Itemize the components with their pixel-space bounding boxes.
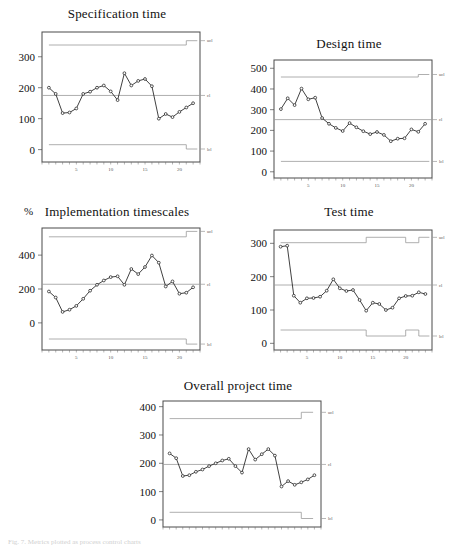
figure-control-charts: Specification time 01002003005101520uclc… [0,0,463,547]
series-line [281,89,425,142]
data-point [178,292,181,295]
data-point [341,130,344,133]
data-point [178,111,181,114]
x-tick-label: 20 [177,355,183,360]
data-point [48,86,51,89]
cl-label: cl [207,282,211,287]
data-point [286,244,289,247]
data-point [102,84,105,87]
data-point [201,468,204,471]
data-point [151,254,154,257]
y-tick-label: 100 [19,113,36,125]
cl-label: cl [328,462,332,467]
data-point [286,97,289,100]
data-point [280,485,283,488]
y-tick-label: 500 [251,62,268,74]
data-point [300,481,303,484]
data-point [185,106,188,109]
figure-caption: Fig. 7. Metrics plotted as process contr… [8,538,141,546]
data-point [157,117,160,120]
data-point [292,294,295,297]
ucl-line [281,237,430,242]
y-tick-label: 0 [151,514,157,526]
data-point [171,116,174,119]
data-point [130,268,133,271]
plot-implementation-timescales: 02004005101520uclcllcl [6,220,228,380]
data-point [321,117,324,120]
data-point [68,111,71,114]
data-point [227,457,230,460]
data-point [157,261,160,264]
data-point [188,474,191,477]
data-point [137,80,140,83]
x-tick-label: 10 [108,167,114,172]
plot-overall-project-time: 0100200300400uclcllcl [113,395,363,545]
y-tick-label: 100 [251,304,268,316]
data-point [312,297,315,300]
panel-design-time: Design time 01002003004005005101520uclcl… [238,36,460,208]
x-tick-label: 15 [143,355,149,360]
data-point [307,98,310,101]
plot-frame [274,60,432,178]
x-tick-label: 10 [108,355,114,360]
y-tick-label: 300 [251,104,268,116]
chart-title-design-time: Design time [238,36,460,52]
x-tick-label: 20 [409,183,415,188]
data-point [96,283,99,286]
series-line [49,256,193,312]
data-point [116,275,119,278]
data-point [89,90,92,93]
data-point [424,122,427,125]
data-point [348,122,351,125]
data-point [214,462,217,465]
ucl-label: ucl [439,235,445,240]
data-point [221,459,224,462]
x-tick-label: 15 [143,167,149,172]
data-point [319,295,322,298]
data-point [403,137,406,140]
data-point [247,448,250,451]
panel-overall-project-time: Overall project time 0100200300400uclcll… [113,378,363,546]
data-point [280,108,283,111]
data-point [385,309,388,312]
lcl-label: lcl [207,342,212,347]
data-point [61,311,64,314]
data-point [234,465,237,468]
ucl-label: ucl [207,38,213,43]
data-point [332,278,335,281]
y-tick-label: 300 [251,237,268,249]
data-point [82,93,85,96]
data-point [325,289,328,292]
data-point [144,266,147,269]
y-tick-label: 400 [251,83,268,95]
ucl-line [49,231,197,236]
data-point [389,140,392,143]
data-point [89,289,92,292]
chart-title-implementation-timescales: Implementation timescales [6,204,228,220]
data-point [116,99,119,102]
chart-canvas-design-time: 01002003004005005101520uclcllcl [238,52,460,208]
data-point [371,301,374,304]
data-point [195,470,198,473]
plot-specification-time: 01002003005101520uclcllcl [6,22,228,194]
x-tick-label: 15 [375,183,381,188]
data-point [306,478,309,481]
panel-specification-time: Specification time 01002003005101520uclc… [6,6,228,196]
y-tick-label: 0 [262,166,268,178]
panel-test-time: Test time 01002003005101520uclcllcl [238,204,460,380]
ucl-line [170,412,314,418]
data-point [391,306,394,309]
data-point [287,480,290,483]
panel-implementation-timescales: Implementation timescales % 020040051015… [6,204,228,380]
data-point [383,134,386,137]
data-point [352,289,355,292]
y-tick-label: 300 [19,51,36,63]
data-point [82,297,85,300]
y-tick-label: 400 [19,249,36,261]
data-point [300,87,303,90]
plot-frame [42,32,200,162]
y-tick-label: 200 [140,457,157,469]
y-tick-label: 200 [19,283,36,295]
data-point [164,113,167,116]
data-point [396,137,399,140]
